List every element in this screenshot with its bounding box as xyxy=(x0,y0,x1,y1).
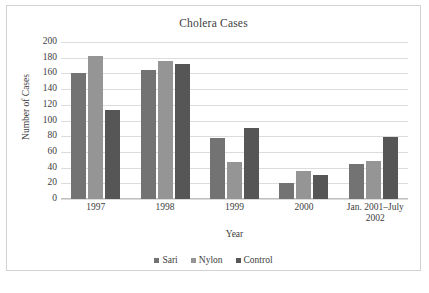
bar-group xyxy=(200,42,269,199)
legend-label: Control xyxy=(244,255,273,265)
bar-control xyxy=(244,128,259,199)
legend-item[interactable]: Control xyxy=(236,255,273,265)
legend-label: Nylon xyxy=(199,255,223,265)
bar-group xyxy=(61,42,130,199)
bar-control xyxy=(175,64,190,199)
bar-nylon xyxy=(227,162,242,199)
legend-swatch-icon xyxy=(191,258,196,263)
chart-legend: SariNylonControl xyxy=(7,255,420,265)
legend-label: Sari xyxy=(162,255,177,265)
y-tick-label: 200 xyxy=(11,37,57,47)
bar-group xyxy=(269,42,338,199)
bar-control xyxy=(313,175,328,199)
y-tick-label: 160 xyxy=(11,69,57,79)
x-tick-label: 1998 xyxy=(130,202,199,224)
y-tick-label: 80 xyxy=(11,131,57,141)
legend-swatch-icon xyxy=(236,258,241,263)
legend-item[interactable]: Nylon xyxy=(191,255,223,265)
x-tick-label: 1997 xyxy=(61,202,130,224)
bar-groups xyxy=(61,42,408,199)
legend-item[interactable]: Sari xyxy=(154,255,177,265)
y-tick-label: 20 xyxy=(11,179,57,189)
y-tick-label: 180 xyxy=(11,53,57,63)
x-tick-label: 1999 xyxy=(200,202,269,224)
chart-figure: Cholera Cases Number of Cases 0204060801… xyxy=(6,5,421,271)
y-tick-label: 120 xyxy=(11,100,57,110)
bar-control xyxy=(105,110,120,199)
chart-title: Cholera Cases xyxy=(7,17,420,29)
bar-nylon xyxy=(366,161,381,199)
x-tick-label: 2000 xyxy=(269,202,338,224)
y-tick-label: 100 xyxy=(11,116,57,126)
bar-sari xyxy=(279,183,294,199)
x-axis-title: Year xyxy=(61,229,408,239)
bar-sari xyxy=(71,73,86,199)
bar-group xyxy=(130,42,199,199)
bar-nylon xyxy=(296,171,311,199)
x-tick-label: Jan. 2001–July 2002 xyxy=(341,202,410,224)
gridline xyxy=(61,199,408,200)
y-tick-label: 40 xyxy=(11,163,57,173)
bar-nylon xyxy=(158,61,173,199)
y-tick-label: 0 xyxy=(11,194,57,204)
y-tick-label: 140 xyxy=(11,84,57,94)
bar-sari xyxy=(349,164,364,199)
bar-group xyxy=(339,42,408,199)
y-axis-tick-labels: 020406080100120140160180200 xyxy=(7,42,57,199)
x-axis-tick-labels: 1997199819992000Jan. 2001–July 2002 xyxy=(61,202,408,224)
bar-sari xyxy=(141,70,156,199)
legend-swatch-icon xyxy=(154,258,159,263)
bar-control xyxy=(383,137,398,199)
bar-nylon xyxy=(88,56,103,199)
bar-sari xyxy=(210,138,225,199)
y-tick-label: 60 xyxy=(11,147,57,157)
